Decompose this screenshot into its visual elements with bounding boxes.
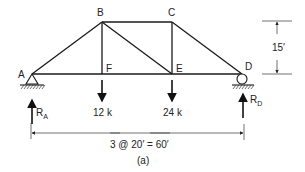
node-label-A: A <box>18 69 25 80</box>
figure-caption: (a) <box>137 155 149 166</box>
node-label-E: E <box>176 63 183 74</box>
span-dimension <box>31 123 244 140</box>
node-label-B: B <box>97 7 104 18</box>
truss-diagram: A B C D F E <box>0 0 305 172</box>
load-label-24k: 24 k <box>163 107 183 118</box>
member-BE <box>102 22 172 74</box>
height-dimension-label: 15′ <box>272 42 285 53</box>
truss-members <box>32 22 242 74</box>
node-label-C: C <box>168 7 175 18</box>
reaction-label-RD: RD <box>250 94 262 107</box>
node-label-F: F <box>106 63 112 74</box>
roller-support-icon <box>232 74 254 89</box>
member-AB <box>32 22 102 74</box>
node-label-D: D <box>245 61 252 72</box>
load-label-12k: 12 k <box>93 107 113 118</box>
span-dimension-label: 3 @ 20′ = 60′ <box>110 139 169 150</box>
reaction-label-RA: RA <box>36 107 48 120</box>
